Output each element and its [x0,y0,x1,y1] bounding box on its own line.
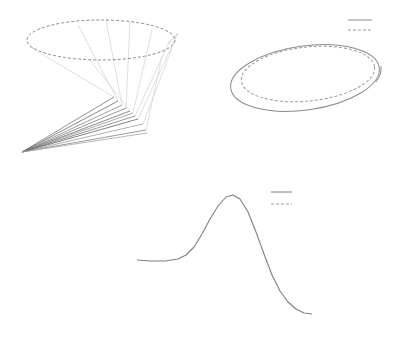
peak-curve-legend [271,192,292,204]
connector-line [30,47,114,97]
ellipse-plot-legend [348,20,372,30]
connector-line [90,60,130,111]
connector-line [126,22,130,108]
ellipse-plot [226,36,383,120]
figure-canvas [0,0,402,337]
fan-line [22,116,135,152]
connector-line [143,48,172,124]
solid-ellipse [226,36,383,120]
cone-plot [22,20,178,152]
dashed-ellipse [239,40,378,108]
fan-line [22,124,143,152]
dashed-ellipse [27,20,175,60]
peak-curve-plot [137,195,312,314]
spur-line [168,33,178,44]
connector-line [106,20,122,105]
fan-line [22,119,138,152]
figure-svg [0,0,402,337]
connector-line [135,40,170,116]
connector-line [78,25,118,101]
connector-line [146,56,162,130]
peak-curve-line [137,195,312,314]
fan-line [22,105,122,152]
fan-line [22,108,126,152]
